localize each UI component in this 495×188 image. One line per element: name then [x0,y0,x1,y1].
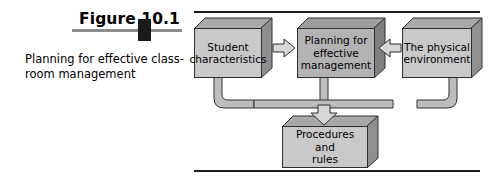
figure-caption-text: Planning for effective class- room manag… [25,52,185,81]
caption-divider-bar [72,29,182,32]
figure-page: Figure 10.1 Planning for effective class… [0,0,495,188]
figure-caption-block: Figure 10.1 Planning for effective class… [0,0,190,188]
arrow-environment-to-planning [378,38,402,58]
diagram-panel: Student characteristics Planning for eff… [192,0,495,188]
caption-divider-knob [138,19,151,41]
box-label-student-characteristics: Student characteristics [194,28,262,78]
arrow-student-to-planning [272,38,296,58]
box-student-characteristics: Student characteristics [194,18,272,78]
box-planning-effective-management: Planning for effective management [297,18,385,78]
box-label-physical-environment: The physical environment [402,28,472,78]
box-label-procedures-and-rules: Procedures and rules [282,126,368,168]
box-physical-environment: The physical environment [402,18,482,78]
box-side-face [471,18,482,78]
figure-number: Figure 10.1 [28,10,180,28]
box-label-planning-effective-management: Planning for effective management [297,28,375,78]
box-side-face [367,116,378,168]
arrow-all-to-procedures [310,104,338,126]
